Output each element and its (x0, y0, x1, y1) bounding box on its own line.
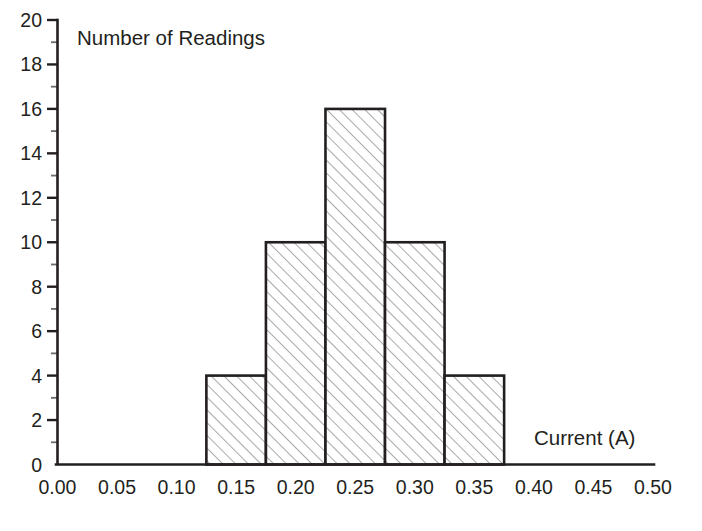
chart-canvas: 02468101214161820 0.000.050.100.150.200.… (0, 0, 702, 531)
y-axis-tick-label: 20 (20, 9, 42, 31)
x-axis-tick-label: 0.45 (574, 476, 612, 498)
x-axis-tick-label: 0.05 (98, 476, 136, 498)
histogram-bar (266, 242, 326, 464)
y-axis-tick-label: 10 (20, 231, 42, 253)
histogram-chart: 02468101214161820 0.000.050.100.150.200.… (0, 0, 702, 531)
x-axis-tick-labels: 0.000.050.100.150.200.250.300.350.400.45… (39, 476, 673, 498)
x-axis-title: Current (A) (534, 426, 635, 449)
x-axis-tick-label: 0.00 (39, 476, 77, 498)
y-axis-tick-label: 0 (31, 454, 42, 476)
x-axis-tick-label: 0.20 (277, 476, 315, 498)
x-axis-tick-label: 0.30 (396, 476, 434, 498)
x-axis-tick-label: 0.50 (634, 476, 672, 498)
x-axis-tick-label: 0.25 (336, 476, 374, 498)
plot-title: Number of Readings (77, 26, 265, 49)
y-axis-tick-label: 12 (20, 187, 42, 209)
y-axis-tick-label: 18 (20, 53, 42, 75)
histogram-bar (385, 242, 445, 464)
y-axis-tick-label: 16 (20, 98, 42, 120)
y-axis-tick-label: 6 (31, 320, 42, 342)
histogram-bar (445, 376, 505, 465)
y-axis-tick-label: 2 (31, 409, 42, 431)
histogram-bar (206, 376, 266, 465)
y-axis-tick-label: 14 (20, 142, 42, 164)
x-axis-tick-label: 0.40 (515, 476, 553, 498)
histogram-bar (325, 109, 385, 465)
x-axis-tick-label: 0.15 (217, 476, 255, 498)
y-axis-tick-label: 4 (31, 365, 42, 387)
x-axis-tick-label: 0.10 (158, 476, 196, 498)
y-axis-tick-label: 8 (31, 276, 42, 298)
x-axis-tick-label: 0.35 (455, 476, 493, 498)
